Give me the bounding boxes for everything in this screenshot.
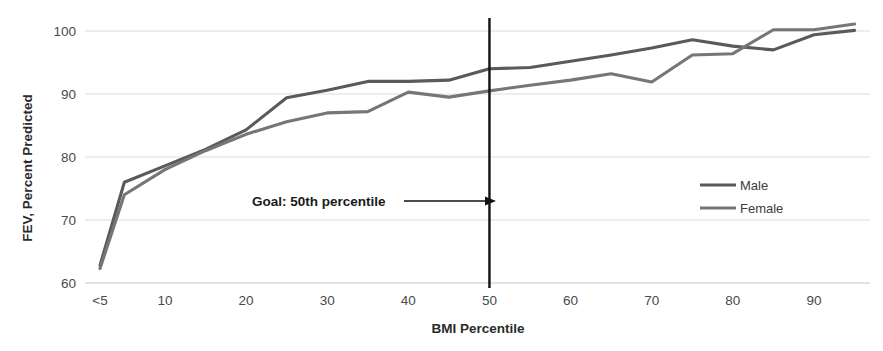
goal-annotation-label: Goal: 50th percentile [252,194,386,209]
x-tick-label-6: 60 [563,293,578,308]
x-tick-label-4: 40 [401,293,416,308]
x-tick-label-2: 20 [239,293,254,308]
x-tick-label-3: 30 [320,293,335,308]
x-axis-title: BMI Percentile [431,321,525,336]
x-tick-label-9: 90 [806,293,821,308]
chart-canvas: 10090807060 <5102030405060708090 Goal: 5… [0,0,883,351]
y-axis-title: FEV, Percent Predicted [20,94,35,241]
legend-label-male: Male [740,178,768,193]
fev-bmi-percentile-chart: 10090807060 <5102030405060708090 Goal: 5… [0,0,883,351]
legend-label-female: Female [740,201,783,216]
y-tick-label-60: 60 [61,276,76,291]
chart-background [0,0,883,351]
x-tick-label-0: <5 [92,293,107,308]
x-tick-label-5: 50 [482,293,497,308]
x-tick-label-8: 80 [725,293,740,308]
y-tick-label-90: 90 [61,87,76,102]
x-tick-label-7: 70 [644,293,659,308]
y-tick-label-80: 80 [61,150,76,165]
x-tick-label-1: 10 [157,293,172,308]
y-tick-label-100: 100 [53,24,76,39]
y-tick-label-70: 70 [61,213,76,228]
